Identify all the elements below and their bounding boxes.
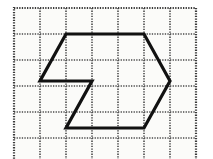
figure-container [0,0,213,159]
polygon-grid-figure [0,0,213,159]
